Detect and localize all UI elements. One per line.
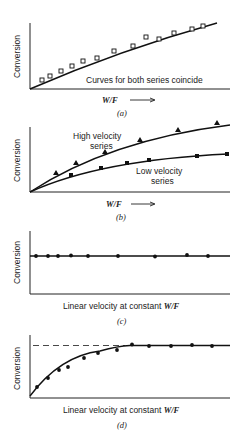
x-axis-label-wf: W/F [164,301,180,311]
low-velocity-label-line2: series [151,176,174,186]
x-axis-label: W/F [106,199,122,209]
x-axis-label-text: Linear velocity at constant [63,405,164,415]
x-axis-label: Linear velocity at constant W/F [63,405,180,415]
low-velocity-curve [30,154,228,192]
y-axis-label: Conversion [12,241,22,284]
low-velocity-label-line1: Low velocity [136,166,183,176]
panel-d: Conversion Linear velocity at constant W… [12,335,230,430]
panel-b: Conversion High velocity series Low velo… [12,120,230,222]
y-axis-label: Conversion [12,35,22,78]
annotation-coincide: Curves for both series coincide [86,75,203,85]
x-axis-label: Linear velocity at constant W/F [63,301,180,311]
x-axis-label-text: Linear velocity at constant [63,301,164,311]
high-velocity-label-line1: High velocity [73,131,122,141]
caption-a: (a) [117,108,127,118]
x-axis-label: W/F [102,95,118,105]
high-velocity-curve [30,125,230,192]
y-axis-label: Conversion [12,139,22,182]
panel-a: Conversion Curves for both series coinci… [12,23,230,118]
y-axis-label: Conversion [12,347,22,390]
x-axis-label-wf: W/F [164,405,180,415]
figure-canvas: Conversion Curves for both series coinci… [0,0,243,444]
caption-b: (b) [116,212,126,222]
panel-c: Conversion Linear velocity at constant W… [12,231,230,326]
high-velocity-label-line2: series [90,141,113,151]
caption-c: (c) [117,316,127,326]
caption-d: (d) [117,420,127,430]
